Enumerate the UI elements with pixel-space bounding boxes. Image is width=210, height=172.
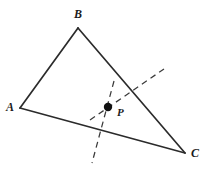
triangle-edges bbox=[20, 28, 185, 153]
steep-dashed-line bbox=[92, 81, 114, 163]
vertex-label-c: C bbox=[191, 147, 199, 159]
edge-AC bbox=[20, 108, 185, 153]
vertex-label-a: A bbox=[6, 101, 14, 113]
edge-BC bbox=[78, 28, 185, 153]
vertex-label-b: B bbox=[74, 8, 82, 20]
figure-canvas bbox=[0, 0, 210, 172]
geometry-figure: A B C P bbox=[0, 0, 210, 172]
diagonal-dashed-line bbox=[90, 69, 164, 120]
point-P-dot bbox=[104, 103, 112, 111]
edge-AB bbox=[20, 28, 78, 108]
point-label-p: P bbox=[117, 107, 124, 118]
